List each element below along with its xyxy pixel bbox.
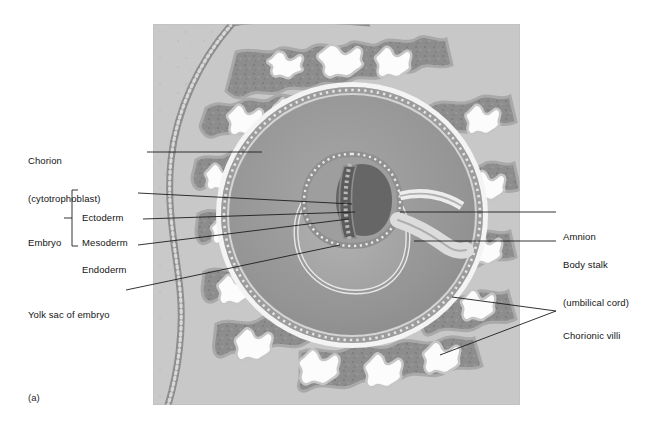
label-body-stalk-line-1: Body stalk xyxy=(563,259,629,272)
label-embryo: Embryo xyxy=(28,212,61,275)
label-yolk-sac-of-embryo: Yolk sac of embryo xyxy=(28,284,110,347)
label-endoderm-text: Endoderm xyxy=(82,264,127,277)
label-chorion-line-1: Chorion xyxy=(28,155,100,168)
panel-label: (a) xyxy=(28,392,40,403)
label-chorionic-villi-text: Chorionic villi xyxy=(563,330,620,343)
figure-panel: Chorion (cytotrophoblast) Embryo Ectoder… xyxy=(0,0,659,436)
label-embryo-text: Embryo xyxy=(28,237,61,250)
label-yolk-sac-text: Yolk sac of embryo xyxy=(28,309,110,322)
label-chorionic-villi: Chorionic villi xyxy=(563,305,620,368)
